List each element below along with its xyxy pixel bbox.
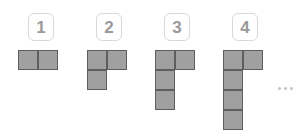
step-label-3: 3 xyxy=(164,13,190,41)
square-cell xyxy=(155,50,175,70)
ellipsis-dot xyxy=(278,87,281,90)
step-label-2: 2 xyxy=(96,13,122,41)
square-cell xyxy=(107,50,127,70)
square-cell xyxy=(38,50,58,70)
square-cell xyxy=(223,90,243,110)
square-grid-1 xyxy=(18,50,58,70)
square-grid-4 xyxy=(223,50,263,130)
square-cell xyxy=(155,70,175,90)
square-cell xyxy=(223,110,243,130)
square-grid-2 xyxy=(87,50,127,90)
square-cell xyxy=(18,50,38,70)
pattern-diagram: 1234 xyxy=(0,0,301,135)
square-cell xyxy=(243,50,263,70)
square-cell xyxy=(87,70,107,90)
square-cell xyxy=(223,50,243,70)
step-label-4: 4 xyxy=(232,13,258,41)
square-cell xyxy=(223,70,243,90)
square-cell xyxy=(155,90,175,110)
square-grid-3 xyxy=(155,50,195,110)
ellipsis-dot xyxy=(290,87,293,90)
square-cell xyxy=(175,50,195,70)
square-cell xyxy=(87,50,107,70)
step-label-1: 1 xyxy=(28,13,54,41)
ellipsis-dot xyxy=(284,87,287,90)
continuation-ellipsis-icon xyxy=(278,87,293,90)
